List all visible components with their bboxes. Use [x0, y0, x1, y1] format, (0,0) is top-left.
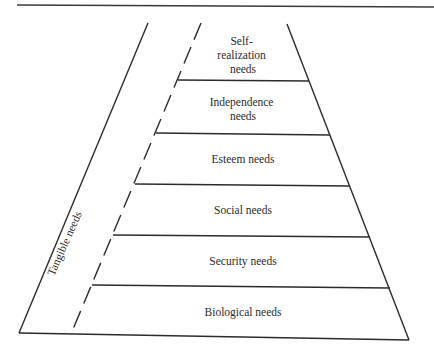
level-divider-2 — [156, 133, 330, 135]
level-divider-3 — [135, 184, 350, 186]
level-label-independence: Independence needs — [210, 96, 277, 122]
outer-left-edge — [19, 23, 148, 333]
level-label-biological: Biological needs — [205, 306, 282, 319]
level-label-esteem: Esteem needs — [212, 153, 275, 165]
hierarchy-of-needs-diagram: Self- realization needs Independence nee… — [0, 0, 434, 361]
pyramid-right-edge — [287, 24, 409, 340]
level-label-social: Social needs — [214, 204, 272, 216]
level-divider-1 — [178, 80, 309, 81]
pyramid-base — [19, 333, 409, 340]
dashed-divider — [71, 23, 201, 334]
level-label-security: Security needs — [209, 255, 277, 268]
side-label-tangible-needs: Tangible needs — [45, 209, 85, 278]
level-divider-5 — [92, 285, 390, 288]
top-rule — [17, 5, 434, 7]
level-divider-4 — [113, 235, 370, 237]
level-label-self-realization: Self- realization needs — [217, 35, 268, 75]
